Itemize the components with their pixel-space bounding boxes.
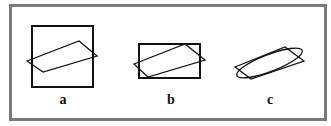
panel-c (234, 43, 305, 84)
panel-b-parallelogram (134, 44, 205, 77)
panel-a-square (32, 26, 93, 87)
panel-c-parallelogram (235, 47, 304, 79)
panel-a-label: a (53, 92, 73, 108)
panel-a (27, 26, 97, 87)
panel-a-parallelogram (27, 41, 97, 72)
panel-b-label: b (161, 92, 181, 108)
panel-b (134, 44, 205, 78)
panel-c-label: c (260, 92, 280, 108)
